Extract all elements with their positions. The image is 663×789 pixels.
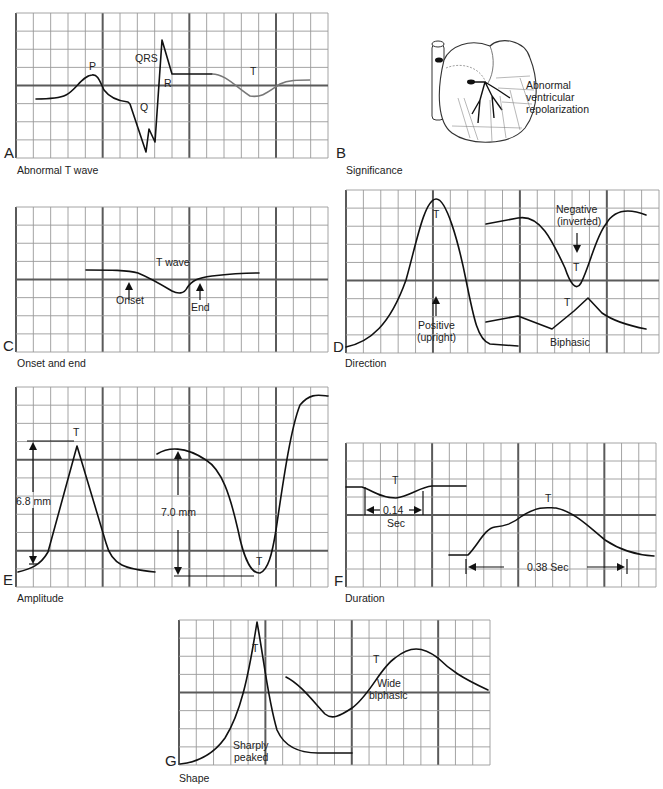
duration-value: 0.14 <box>383 504 404 516</box>
panel-e: 6.8 mm T 7.0 mm T E Amplitude <box>3 387 328 604</box>
onset-label: Onset <box>116 294 144 306</box>
amplitude-value: 6.8 mm <box>16 495 51 507</box>
r-wave-label: R <box>164 77 172 89</box>
panel-letter: F <box>334 572 343 589</box>
short-t-wave-trace <box>346 486 466 498</box>
t-label: T <box>392 474 399 486</box>
ecg-grid <box>16 13 328 158</box>
ecg-trace <box>86 270 259 293</box>
ecg-grid <box>346 190 659 353</box>
biphasic-label: Biphasic <box>550 336 590 348</box>
panel-caption: Abnormal T wave <box>17 164 98 176</box>
sharply-label: Sharply <box>233 739 269 751</box>
t-wave-label: T wave <box>156 256 190 268</box>
wide-label: Wide <box>377 677 401 689</box>
qrs-label: QRS <box>135 52 158 64</box>
panel-letter: D <box>333 338 344 355</box>
panel-caption: Significance <box>346 164 403 176</box>
panel-b: Abnormal ventricular repolarization B Si… <box>336 41 589 176</box>
panel-letter: G <box>165 752 177 769</box>
peaked-label: peaked <box>234 751 269 763</box>
ecg-trace <box>36 40 212 152</box>
ecg-t-wave-figure: P QRS Q R T A Abnormal T wave Abnorma <box>0 0 663 789</box>
end-label: End <box>191 301 210 313</box>
negative-label: Negative <box>556 203 598 215</box>
heart-conduction-icon <box>432 41 536 143</box>
duration-unit: Sec <box>387 517 405 529</box>
panel-letter: E <box>3 571 13 588</box>
t-label: T <box>256 555 263 567</box>
inverted-label: (inverted) <box>557 215 601 227</box>
panel-caption: Shape <box>179 772 210 784</box>
t-wave-label: T <box>250 65 257 77</box>
upright-label: (upright) <box>417 331 456 343</box>
panel-letter: A <box>4 144 14 161</box>
inverted-t-wave-trace <box>157 395 328 573</box>
t-label: T <box>73 426 80 438</box>
q-wave-label: Q <box>140 101 148 113</box>
ecg-grid <box>16 207 328 352</box>
panel-letter: C <box>3 337 14 354</box>
panel-caption: Direction <box>345 357 387 369</box>
biphasic-label: biphasic <box>369 689 408 701</box>
panel-g: T Sharply peaked T Wide biphasic G Shape <box>165 620 490 784</box>
panel-f: 0.14 Sec T 0.38 Sec T F Duration <box>334 443 656 604</box>
significance-text-line-2: ventricular <box>526 91 575 103</box>
t-negative-label: T <box>573 261 580 273</box>
t-label: T <box>373 653 380 665</box>
significance-text-line-1: Abnormal <box>526 79 571 91</box>
t-label: T <box>545 492 552 504</box>
panel-a: P QRS Q R T A Abnormal T wave <box>4 13 328 176</box>
panel-letter: B <box>336 144 346 161</box>
t-positive-label: T <box>433 208 440 220</box>
panel-caption: Onset and end <box>17 357 86 369</box>
duration-value: 0.38 Sec <box>527 561 568 573</box>
amplitude-value: 7.0 mm <box>161 506 196 518</box>
panel-caption: Amplitude <box>17 592 64 604</box>
significance-text-line-3: repolarization <box>526 103 589 115</box>
panel-d: T Positive (upright) Negative (inverted)… <box>333 190 659 369</box>
t-label: T <box>252 642 259 654</box>
p-wave-label: P <box>89 60 96 72</box>
positive-label: Positive <box>418 319 455 331</box>
t-biphasic-label: T <box>564 296 571 308</box>
upright-t-wave-trace <box>18 446 155 572</box>
panel-c: T wave Onset End C Onset and end <box>3 207 328 369</box>
ecg-grid <box>16 387 328 587</box>
panel-caption: Duration <box>345 592 385 604</box>
ecg-grid <box>179 620 490 765</box>
